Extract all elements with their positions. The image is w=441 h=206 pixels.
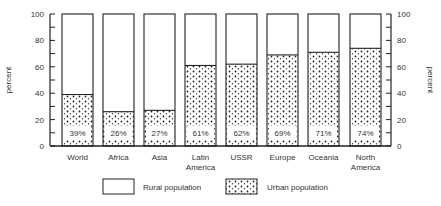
percent-label: 26%	[110, 129, 126, 138]
percent-label: 61%	[192, 129, 208, 138]
bar-oceania: 71%	[308, 14, 339, 146]
y-axis-title-right: percent	[426, 67, 435, 94]
x-axis-labels: WorldAfricaAsiaLatinAmericaUSSREuropeOce…	[67, 153, 381, 172]
y-tick-label: 80	[35, 36, 44, 45]
y-tick-label: 40	[397, 89, 406, 98]
category-label: World	[67, 153, 88, 162]
legend-item-urban: Urban population	[226, 179, 328, 194]
y-tick-label: 20	[35, 116, 44, 125]
percent-label: 69%	[274, 129, 290, 138]
y-tick-label: 20	[397, 116, 406, 125]
category-label: Latin	[192, 153, 209, 162]
legend-label-urban: Urban population	[267, 183, 328, 192]
y-axis-title-left: percent	[4, 66, 13, 93]
category-label: North	[356, 153, 376, 162]
category-label: Asia	[152, 153, 168, 162]
bar-world: 39%	[62, 14, 93, 146]
y-tick-label: 100	[397, 10, 411, 19]
bar-latin-america: 61%	[185, 14, 216, 146]
y-tick-label: 0	[397, 142, 402, 151]
bar-europe: 69%	[267, 14, 298, 146]
y-tick-label: 60	[35, 63, 44, 72]
y-tick-label: 80	[397, 36, 406, 45]
category-label: USSR	[230, 153, 252, 162]
y-tick-label: 40	[35, 89, 44, 98]
urban-swatch	[226, 179, 257, 194]
y-tick-label: 100	[31, 10, 45, 19]
bar-ussr: 62%	[226, 14, 257, 146]
right-y-axis: 020406080100	[386, 10, 411, 151]
percent-label: 27%	[151, 129, 167, 138]
bar-asia: 27%	[144, 14, 175, 146]
category-label: America	[186, 163, 216, 172]
bars-group: 39%26%27%61%62%69%71%74%	[62, 14, 381, 146]
y-tick-label: 60	[397, 63, 406, 72]
category-label: Africa	[108, 153, 129, 162]
category-label: Europe	[270, 153, 296, 162]
legend: Rural populationUrban population	[103, 179, 328, 194]
percent-label: 71%	[315, 129, 331, 138]
category-label: Oceania	[309, 153, 339, 162]
rural-swatch	[103, 179, 134, 194]
legend-item-rural: Rural population	[103, 179, 201, 194]
bar-north-america: 74%	[350, 14, 381, 146]
bar-africa: 26%	[103, 14, 134, 146]
urbanization-bar-chart: 020406080100 020406080100 39%26%27%61%62…	[0, 0, 441, 206]
percent-label: 74%	[357, 129, 373, 138]
category-label: America	[351, 163, 381, 172]
y-tick-label: 0	[40, 142, 45, 151]
percent-label: 62%	[233, 129, 249, 138]
legend-label-rural: Rural population	[143, 183, 201, 192]
percent-label: 39%	[69, 129, 85, 138]
